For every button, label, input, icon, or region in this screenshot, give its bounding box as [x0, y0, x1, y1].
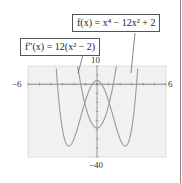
y-max-label: 10: [91, 55, 100, 65]
x-min-label: −6: [12, 79, 22, 89]
fpp-function-label: f″(x) = 12(x² − 2): [20, 38, 100, 56]
y-min-label: −40: [89, 160, 103, 170]
f-function-label: f(x) = x⁴ − 12x² + 2: [72, 14, 160, 32]
x-max-label: 6: [168, 79, 173, 89]
